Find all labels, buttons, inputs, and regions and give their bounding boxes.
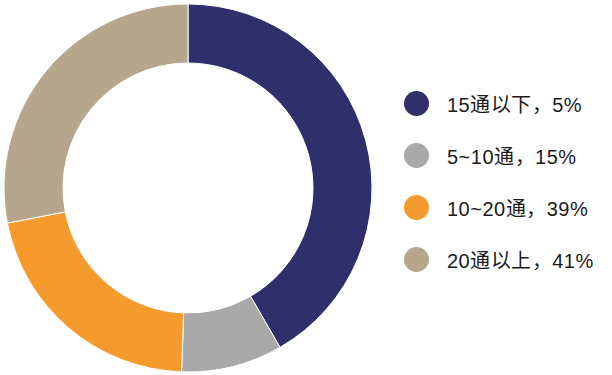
chart-legend: 15通以下，5% 5~10通，15% 10~20通，39% 20通以上，41% — [404, 86, 612, 276]
donut-slice-group — [4, 4, 372, 372]
legend-item-2[interactable]: 10~20通，39% — [404, 190, 612, 224]
donut-slice-2[interactable] — [7, 212, 183, 372]
legend-label-2: 10~20通，39% — [447, 193, 588, 222]
legend-swatch-orange — [404, 195, 429, 220]
legend-label-1: 5~10通，15% — [447, 141, 577, 170]
legend-item-1[interactable]: 5~10通，15% — [404, 138, 612, 172]
legend-swatch-gray — [404, 143, 429, 168]
legend-label-3: 20通以上，41% — [447, 245, 594, 274]
donut-chart-plot-area — [0, 0, 380, 375]
legend-swatch-tan — [404, 247, 429, 272]
donut-slice-3[interactable] — [4, 4, 188, 223]
donut-chart-figure: 15通以下，5% 5~10通，15% 10~20通，39% 20通以上，41% — [0, 0, 612, 375]
legend-swatch-navy — [404, 91, 429, 116]
legend-item-0[interactable]: 15通以下，5% — [404, 86, 612, 120]
legend-item-3[interactable]: 20通以上，41% — [404, 242, 612, 276]
donut-slice-0[interactable] — [188, 4, 372, 347]
donut-chart-svg — [0, 0, 380, 375]
legend-label-0: 15通以下，5% — [447, 89, 582, 118]
